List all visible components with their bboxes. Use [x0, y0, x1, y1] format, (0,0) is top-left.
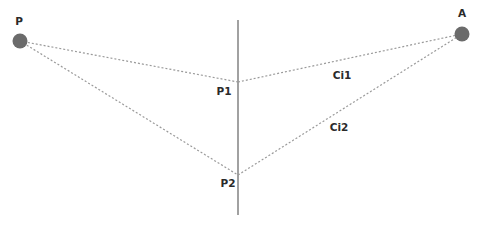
path-p-p2-a: [20, 34, 462, 175]
path-p-p1-a: [20, 34, 462, 82]
label-ci2: Ci2: [330, 121, 349, 133]
label-p1: P1: [216, 85, 231, 97]
point-p-marker: [13, 34, 28, 49]
label-p: P: [15, 15, 23, 27]
refraction-diagram: P A P1 P2 Ci1 Ci2: [0, 0, 484, 228]
segment-p-to-p1: [20, 41, 238, 82]
segment-p2-to-a: [238, 34, 462, 175]
point-a-marker: [455, 27, 470, 42]
segment-p-to-p2: [20, 41, 238, 175]
label-a: A: [458, 7, 467, 19]
label-p2: P2: [220, 177, 235, 189]
label-ci1: Ci1: [333, 69, 352, 81]
